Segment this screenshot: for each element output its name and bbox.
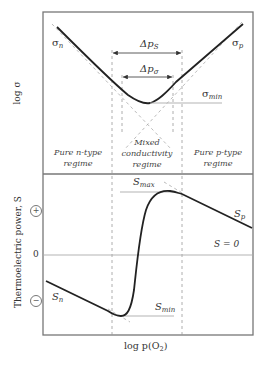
regime-p-line2: regime xyxy=(183,158,253,169)
regime-pure-n-type: Pure n-type regime xyxy=(45,147,111,169)
sigma-min-label: σmin xyxy=(202,89,222,99)
regime-p-line1: Pure p-type xyxy=(183,147,253,158)
sigma-min-subscript: min xyxy=(209,93,222,101)
s-min-symbol: S xyxy=(155,301,162,312)
sigma-n-symbol: σ xyxy=(52,37,59,48)
plus-sign-icon: + xyxy=(30,205,42,217)
x-axis-label-prefix: log p(O xyxy=(124,340,159,351)
regime-mixed-line2: conductivity xyxy=(112,148,182,159)
sigma-p-symbol: σ xyxy=(232,37,239,48)
delta-ps-label: ΔpS xyxy=(140,39,158,49)
s-n-symbol: S xyxy=(52,291,59,302)
sigma-n-subscript: n xyxy=(59,42,64,50)
delta-psigma-symbol: Δp xyxy=(140,63,154,74)
regime-n-line2: regime xyxy=(45,158,111,169)
regime-mixed-line1: Mixed xyxy=(112,137,182,148)
thermoelectric-curve xyxy=(46,191,252,316)
s-max-subscript: max xyxy=(140,181,155,189)
sigma-min-symbol: σ xyxy=(202,88,209,99)
delta-ps-symbol: Δp xyxy=(140,38,154,49)
regime-pure-p-type: Pure p-type regime xyxy=(183,147,253,169)
x-axis-label-suffix: ) xyxy=(164,340,168,351)
s-min-subscript: min xyxy=(162,306,175,314)
s-max-label: Smax xyxy=(133,177,155,187)
sigma-p-subscript: p xyxy=(239,42,243,50)
s-p-label: Sp xyxy=(234,209,245,219)
minus-sign-icon: − xyxy=(30,295,42,307)
s-p-symbol: S xyxy=(234,208,241,219)
y-axis-label-thermoelectric-power: Thermoelectric power, S xyxy=(13,187,23,317)
s-p-subscript: p xyxy=(241,213,245,221)
delta-ps-subscript: S xyxy=(154,43,159,51)
s-n-label: Sn xyxy=(52,292,63,302)
regime-n-line1: Pure n-type xyxy=(45,147,111,158)
defect-chemistry-figure: log σ σn σp σmin ΔpS Δpσ Pure n-type reg… xyxy=(0,0,266,368)
zero-tick-label: 0 xyxy=(33,250,39,259)
s-zero-label: S = 0 xyxy=(214,240,239,249)
y-axis-label-log-sigma: log σ xyxy=(12,78,22,108)
regime-mixed: Mixed conductivity regime xyxy=(112,137,182,170)
x-axis-label: log p(O2) xyxy=(124,341,167,351)
delta-psigma-label: Δpσ xyxy=(140,64,158,74)
delta-psigma-subscript: σ xyxy=(154,68,159,76)
s-min-label: Smin xyxy=(155,302,175,312)
regime-mixed-line3: regime xyxy=(112,159,182,170)
sigma-p-label: σp xyxy=(232,38,243,48)
s-n-subscript: n xyxy=(59,296,64,304)
s-max-symbol: S xyxy=(133,176,140,187)
sigma-n-label: σn xyxy=(52,38,63,48)
